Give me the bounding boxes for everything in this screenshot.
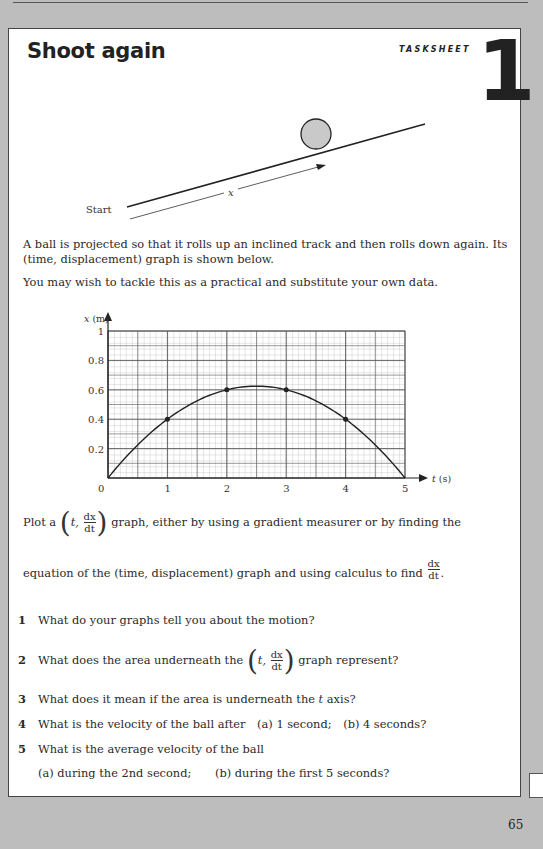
data-point-marker [224, 387, 229, 392]
question-2: 2What does the area underneath the (t, d… [18, 649, 398, 672]
svg-text:0.4: 0.4 [88, 414, 104, 425]
svg-text:3: 3 [283, 483, 289, 494]
side-tab [529, 773, 543, 798]
y-axis-label: x (m) [84, 313, 109, 324]
question-5-parts: (a) during the 2nd second; (b) during th… [38, 766, 389, 781]
question-1: 1What do your graphs tell you about the … [18, 613, 315, 628]
svg-text:4: 4 [343, 483, 349, 494]
question-3: 3What does it mean if the area is undern… [18, 692, 356, 707]
svg-text:0.6: 0.6 [88, 385, 104, 396]
svg-text:0: 0 [98, 483, 104, 494]
svg-text:1: 1 [164, 483, 170, 494]
x-axis-arrow-icon [419, 474, 428, 482]
displacement-time-graph: x (m) t (s) 0123450.20.40.60.81 [0, 0, 540, 500]
page-number: 65 [508, 818, 523, 832]
calculus-instruction: equation of the (time, displacement) gra… [23, 562, 444, 585]
data-point-marker [284, 387, 289, 392]
svg-text:1: 1 [98, 326, 104, 337]
svg-text:2: 2 [224, 483, 230, 494]
x-axis-label: t (s) [432, 473, 451, 484]
data-point-marker [343, 417, 348, 422]
question-5: 5What is the average velocity of the bal… [18, 742, 264, 757]
data-point-marker [165, 417, 170, 422]
svg-text:5: 5 [402, 483, 408, 494]
question-4: 4What is the velocity of the ball after … [18, 717, 426, 732]
svg-text:0.2: 0.2 [88, 444, 104, 455]
plot-instruction: Plot a (t, dxdt) graph, either by using … [23, 511, 461, 534]
svg-text:0.8: 0.8 [88, 355, 104, 366]
